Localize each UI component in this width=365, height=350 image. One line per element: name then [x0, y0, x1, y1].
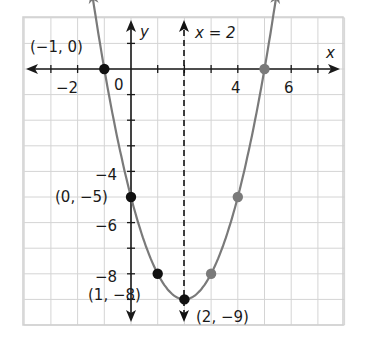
point-label-0-neg5: (0, −5)	[55, 188, 108, 206]
point-label-1-neg8: (1, −8)	[88, 286, 141, 304]
x-tick-label-4: 4	[231, 79, 241, 97]
y-tick-label-neg4: −4	[95, 166, 117, 184]
reflected-point	[233, 192, 243, 202]
parabola-graph: y x x = 2 0 −2 4 6 −4 −6 −8 (−1, 0) (0, …	[0, 0, 365, 350]
symmetry-label-text: x = 2	[194, 24, 236, 42]
data-point	[99, 64, 109, 74]
y-axis-label: y	[139, 23, 150, 41]
data-point	[179, 294, 189, 304]
origin-label: 0	[114, 76, 124, 94]
x-axis-label: x	[325, 44, 335, 62]
point-label-2-neg9: (2, −9)	[196, 308, 249, 326]
reflected-point	[206, 269, 216, 279]
x-tick-label-6: 6	[284, 79, 294, 97]
symmetry-label: x = 2	[194, 24, 236, 42]
y-tick-label-neg6: −6	[95, 217, 117, 235]
y-tick-label-neg8: −8	[95, 268, 117, 286]
data-point	[153, 269, 163, 279]
data-point	[126, 192, 136, 202]
point-label-neg1-0: (−1, 0)	[30, 38, 83, 56]
x-tick-label-neg2: −2	[56, 79, 78, 97]
reflected-point	[259, 64, 269, 74]
